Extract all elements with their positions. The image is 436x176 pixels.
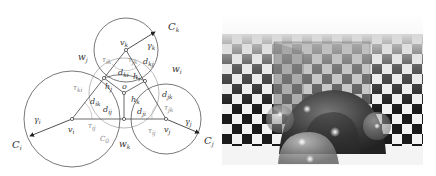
- label-d-ik: dik: [90, 97, 101, 107]
- label-vi: vi: [68, 125, 75, 135]
- label-tau-ik: τik: [102, 56, 112, 65]
- label-ci: Ci: [12, 139, 22, 151]
- label-d-kj: dkj: [143, 57, 154, 68]
- label-d-ki: dki: [118, 68, 129, 78]
- circle-packing-diagram: Ck Ci Cj C0 vk vi vj o γk γi γj wj wi wk…: [0, 0, 216, 176]
- label-d-jk: djk: [162, 90, 173, 101]
- raytraced-scene-image: [222, 14, 423, 165]
- label-h-i: hi: [133, 72, 140, 82]
- label-tau-jk: τjk: [128, 56, 138, 66]
- label-ck: Ck: [168, 21, 180, 33]
- label-wi: wi: [172, 64, 182, 75]
- label-tau-jk-2: τjk: [164, 104, 174, 114]
- label-c0: C0: [100, 135, 109, 144]
- glass-ball-left: [266, 105, 294, 133]
- label-tau-ij-2: τij: [148, 127, 156, 137]
- label-tau-ij: τij: [88, 122, 96, 132]
- label-vj: vj: [164, 125, 171, 136]
- label-cj: Cj: [204, 135, 214, 148]
- label-h-j: hj: [105, 82, 112, 93]
- label-d-ij: dij: [103, 105, 112, 116]
- label-wj: wj: [78, 52, 88, 64]
- label-d-ji: dji: [137, 107, 146, 118]
- label-gamma-k: γk: [147, 41, 156, 51]
- label-vk: vk: [120, 38, 129, 48]
- label-o: o: [122, 82, 127, 91]
- label-gamma-j: γj: [185, 117, 192, 128]
- label-wk: wk: [119, 139, 131, 150]
- label-gamma-i: γi: [34, 115, 41, 125]
- label-tau-ki: τki: [73, 84, 83, 93]
